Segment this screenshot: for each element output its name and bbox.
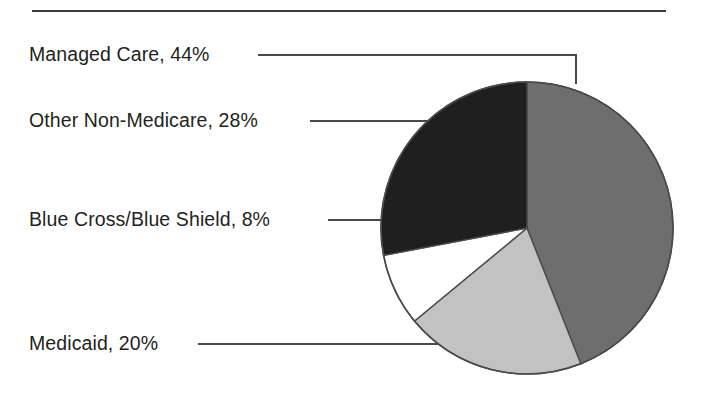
pie-slice-group [381,82,673,374]
pie-chart [374,75,680,381]
slice-label-blue-cross-blue-shield: Blue Cross/Blue Shield, 8% [29,210,270,230]
leader-line-managed-care-horizontal [258,54,577,56]
pie-chart-svg [374,75,680,381]
slice-label-other-non-medicare: Other Non-Medicare, 28% [29,111,258,131]
pie-chart-figure: Managed Care, 44% Other Non-Medicare, 28… [0,0,705,403]
top-horizontal-rule [32,10,666,12]
pie-slice-other-non-medicare [381,82,527,255]
slice-label-medicaid: Medicaid, 20% [29,334,158,354]
slice-label-managed-care: Managed Care, 44% [29,45,210,65]
